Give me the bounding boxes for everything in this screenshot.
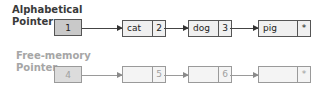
label-line1: Alphabetical	[12, 4, 82, 16]
list-node-pig: pig *	[258, 20, 311, 37]
arrow-icon	[82, 28, 122, 29]
node-data: cat	[123, 21, 152, 36]
node-link: *	[297, 21, 310, 36]
list-node-dog: dog 3	[188, 20, 232, 37]
label-line1: Free-memory	[16, 50, 91, 62]
arrow-icon	[230, 75, 258, 76]
node-data: pig	[259, 21, 297, 36]
free-node-2: 6	[188, 66, 232, 83]
arrow-icon	[164, 28, 188, 29]
arrow-icon	[164, 75, 188, 76]
free-node-1: 5	[122, 66, 166, 83]
node-data: dog	[189, 21, 218, 36]
node-link: *	[297, 67, 310, 82]
pointer-value: 4	[65, 70, 71, 80]
list-node-cat: cat 2	[122, 20, 166, 37]
free-node-3: *	[258, 66, 311, 83]
alphabetical-pointer-box: 1	[54, 19, 82, 36]
arrow-icon	[230, 28, 258, 29]
node-data	[259, 67, 297, 82]
node-data	[189, 67, 218, 82]
pointer-value: 1	[65, 23, 71, 33]
free-memory-pointer-box: 4	[54, 66, 82, 83]
node-data	[123, 67, 152, 82]
arrow-icon	[82, 75, 122, 76]
